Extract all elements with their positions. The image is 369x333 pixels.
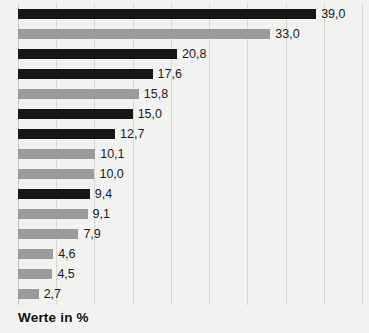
bar[interactable] bbox=[18, 209, 88, 219]
bar-value-label: 4,5 bbox=[57, 264, 74, 284]
bar[interactable] bbox=[18, 229, 78, 239]
bar-value-label: 33,0 bbox=[275, 24, 299, 44]
bar-value-label: 10,0 bbox=[99, 164, 123, 184]
bar-chart: 39,033,020,817,615,815,012,710,110,09,49… bbox=[0, 0, 369, 333]
bar-value-label: 39,0 bbox=[321, 4, 345, 24]
bar-value-label: 9,1 bbox=[93, 204, 110, 224]
bar[interactable] bbox=[18, 289, 39, 299]
bars-container: 39,033,020,817,615,815,012,710,110,09,49… bbox=[18, 4, 362, 305]
bar-row[interactable]: 4,5 bbox=[18, 264, 362, 284]
bar[interactable] bbox=[18, 49, 177, 59]
bar-row[interactable]: 10,1 bbox=[18, 144, 362, 164]
bar-value-label: 10,1 bbox=[100, 144, 124, 164]
bar-row[interactable]: 12,7 bbox=[18, 124, 362, 144]
bar-row[interactable]: 33,0 bbox=[18, 24, 362, 44]
bar-value-label: 17,6 bbox=[158, 64, 182, 84]
bar-value-label: 4,6 bbox=[58, 244, 75, 264]
bar-value-label: 12,7 bbox=[120, 124, 144, 144]
bar-value-label: 2,7 bbox=[44, 284, 61, 304]
bar-value-label: 15,0 bbox=[138, 104, 162, 124]
bar[interactable] bbox=[18, 29, 270, 39]
bar-row[interactable]: 15,0 bbox=[18, 104, 362, 124]
bar-value-label: 20,8 bbox=[182, 44, 206, 64]
bar[interactable] bbox=[18, 189, 90, 199]
bar-row[interactable]: 20,8 bbox=[18, 44, 362, 64]
bar-row[interactable]: 9,1 bbox=[18, 204, 362, 224]
bar[interactable] bbox=[18, 129, 115, 139]
bar-row[interactable]: 39,0 bbox=[18, 4, 362, 24]
bar-row[interactable]: 17,6 bbox=[18, 64, 362, 84]
bar-row[interactable]: 4,6 bbox=[18, 244, 362, 264]
bar[interactable] bbox=[18, 9, 316, 19]
bar-row[interactable]: 15,8 bbox=[18, 84, 362, 104]
bar[interactable] bbox=[18, 149, 95, 159]
bar-row[interactable]: 2,7 bbox=[18, 284, 362, 304]
bar[interactable] bbox=[18, 249, 53, 259]
chart-caption: Werte in % bbox=[18, 310, 89, 325]
bar[interactable] bbox=[18, 89, 139, 99]
bar[interactable] bbox=[18, 69, 153, 79]
bar[interactable] bbox=[18, 109, 133, 119]
bar-value-label: 15,8 bbox=[144, 84, 168, 104]
bar-row[interactable]: 10,0 bbox=[18, 164, 362, 184]
gridline-45 bbox=[362, 4, 363, 305]
bar[interactable] bbox=[18, 169, 94, 179]
bar[interactable] bbox=[18, 269, 52, 279]
bar-row[interactable]: 9,4 bbox=[18, 184, 362, 204]
plot-area: 39,033,020,817,615,815,012,710,110,09,49… bbox=[18, 4, 362, 305]
bar-row[interactable]: 7,9 bbox=[18, 224, 362, 244]
bar-value-label: 9,4 bbox=[95, 184, 112, 204]
bar-value-label: 7,9 bbox=[83, 224, 100, 244]
